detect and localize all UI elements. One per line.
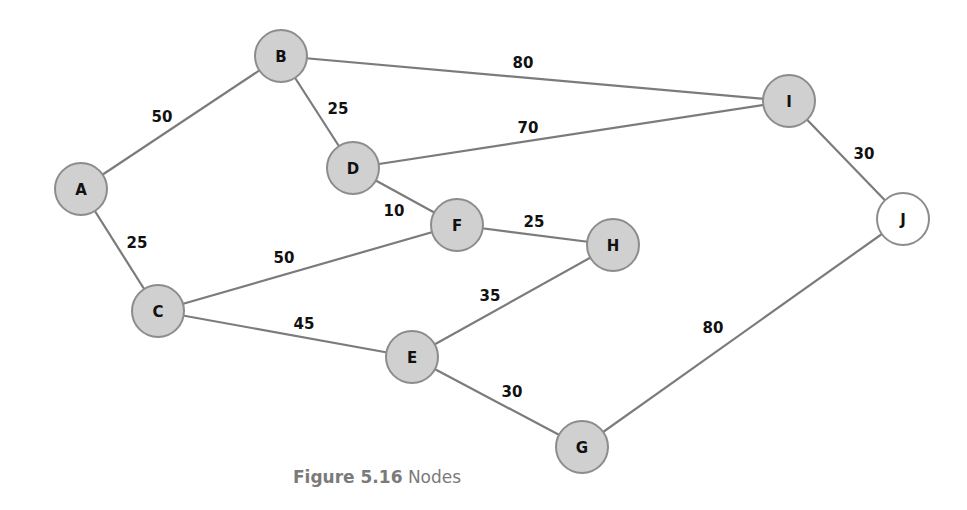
edge-c-f bbox=[158, 225, 457, 311]
node-d: D bbox=[327, 142, 379, 194]
edge-weight-b-d: 25 bbox=[328, 100, 349, 118]
node-label-h: H bbox=[607, 237, 620, 255]
node-label-b: B bbox=[275, 48, 286, 66]
node-f: F bbox=[431, 199, 483, 251]
edge-e-h bbox=[412, 245, 613, 357]
edge-weight-b-i: 80 bbox=[513, 54, 534, 72]
edge-weight-i-j: 30 bbox=[854, 145, 875, 163]
edge-weight-f-h: 25 bbox=[524, 213, 545, 231]
edge-c-e bbox=[158, 311, 412, 357]
node-label-j: J bbox=[899, 211, 906, 229]
edge-weight-c-e: 45 bbox=[294, 315, 315, 333]
edge-weight-a-b: 50 bbox=[152, 108, 173, 126]
node-g: G bbox=[556, 421, 608, 473]
edge-b-i bbox=[281, 56, 789, 101]
edge-weight-d-f: 10 bbox=[384, 202, 405, 220]
edge-weight-j-g: 80 bbox=[703, 319, 724, 337]
node-label-f: F bbox=[452, 217, 462, 235]
node-label-e: E bbox=[407, 349, 417, 367]
node-label-g: G bbox=[576, 439, 588, 457]
edge-weight-c-f: 50 bbox=[274, 249, 295, 267]
figure-number: Figure 5.16 bbox=[293, 467, 403, 487]
node-label-i: I bbox=[786, 93, 792, 111]
node-label-c: C bbox=[152, 303, 163, 321]
edge-weight-e-g: 30 bbox=[502, 383, 523, 401]
node-j: J bbox=[877, 193, 929, 245]
node-label-a: A bbox=[75, 181, 87, 199]
edge-d-i bbox=[353, 101, 789, 168]
edge-weight-e-h: 35 bbox=[480, 287, 501, 305]
edge-weight-a-c: 25 bbox=[127, 234, 148, 252]
node-a: A bbox=[55, 163, 107, 215]
node-b: B bbox=[255, 30, 307, 82]
figure-caption: Figure 5.16 Nodes bbox=[293, 467, 461, 487]
figure-title: Nodes bbox=[408, 467, 461, 487]
node-c: C bbox=[132, 285, 184, 337]
node-i: I bbox=[763, 75, 815, 127]
edge-weight-d-i: 70 bbox=[518, 119, 539, 137]
edge-e-g bbox=[412, 357, 582, 447]
node-h: H bbox=[587, 219, 639, 271]
node-e: E bbox=[386, 331, 438, 383]
nodes-layer: ABCDEFGHIJ bbox=[55, 30, 929, 473]
node-label-d: D bbox=[347, 160, 359, 178]
graph-diagram: 50252580701050452535303080 ABCDEFGHIJ bbox=[0, 0, 967, 510]
edge-a-b bbox=[81, 56, 281, 189]
